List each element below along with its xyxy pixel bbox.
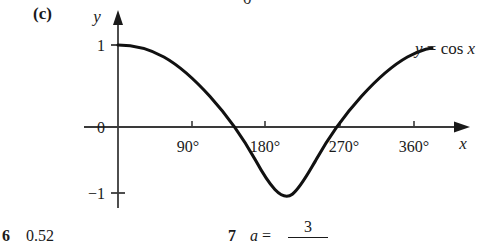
x-tick-label-180: 180° bbox=[250, 138, 280, 155]
curve-label-y: y bbox=[413, 39, 423, 58]
answer-7-number: 7 bbox=[228, 227, 236, 245]
y-tick-label-1: 1 bbox=[97, 37, 105, 54]
cosine-curve bbox=[118, 45, 432, 196]
answer-6-value: 0.52 bbox=[26, 227, 54, 245]
fraction-bar bbox=[288, 237, 328, 238]
answer-7-variable: a = bbox=[250, 227, 271, 245]
x-tick-label-270: 270° bbox=[329, 138, 359, 155]
x-axis-arrowhead bbox=[454, 122, 470, 133]
figure-page: (c) 0 y x 1 0 −1 90° 180° 270° 360° bbox=[0, 0, 500, 252]
answer-6-number: 6 bbox=[2, 227, 10, 245]
curve-label: y = cos x bbox=[413, 39, 476, 58]
curve-label-x: x bbox=[467, 39, 476, 58]
x-tick-label-90: 90° bbox=[177, 138, 199, 155]
x-tick-label-360: 360° bbox=[399, 138, 429, 155]
y-tick-label-minus-1: −1 bbox=[88, 185, 105, 202]
x-axis-label: x bbox=[458, 134, 467, 153]
answer-7-variable-letter: a bbox=[250, 227, 258, 244]
answer-7-numerator: 3 bbox=[288, 218, 328, 236]
answer-7-equals: = bbox=[262, 227, 271, 244]
y-axis-arrowhead bbox=[113, 10, 123, 25]
cosine-graph: y x 1 0 −1 90° 180° 270° 360° y = cos x bbox=[0, 0, 500, 252]
y-axis-label: y bbox=[91, 7, 101, 26]
curve-label-equals: = bbox=[427, 39, 437, 58]
answers-row: 6 0.52 7 a = 3 bbox=[0, 222, 500, 252]
y-tick-label-0: 0 bbox=[97, 119, 105, 136]
curve-label-function: cos bbox=[441, 39, 464, 58]
answer-7-fraction: 3 bbox=[288, 218, 328, 238]
